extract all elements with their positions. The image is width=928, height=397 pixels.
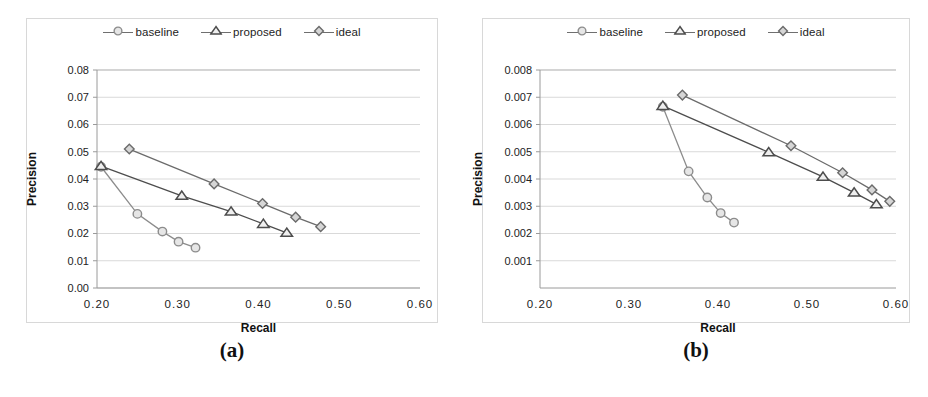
data-point-proposed [848, 188, 860, 196]
y-axis-tick-label: 0.001 [504, 255, 532, 267]
series-ideal [124, 144, 325, 231]
data-point-ideal [885, 197, 895, 207]
data-point-proposed [281, 228, 293, 236]
panel-caption-b: (b) [464, 338, 928, 363]
x-axis-tick-label: 0.50 [326, 298, 352, 310]
chart-panel-a: baselineproposedideal 0.000.010.020.030.… [0, 0, 464, 397]
x-axis-tick-label: 0.40 [705, 298, 731, 310]
y-axis-tick-label: 0.08 [68, 64, 89, 76]
x-axis-tick-label: 0.30 [616, 298, 642, 310]
y-axis-tick-label: 0.002 [504, 227, 532, 239]
y-axis-tick-label: 0.005 [504, 146, 532, 158]
y-axis-tick-label: 0.04 [68, 173, 89, 185]
y-axis-tick-label: 0.007 [504, 91, 532, 103]
x-axis-tick-label: 0.20 [84, 298, 110, 310]
data-point-baseline [684, 167, 692, 175]
y-axis-tick-label: 0.00 [68, 282, 89, 294]
data-point-proposed [176, 191, 188, 199]
figure-container: baselineproposedideal 0.000.010.020.030.… [0, 0, 928, 397]
chart-panel-b: baselineproposedideal 0.0010.0020.0030.0… [464, 0, 928, 397]
y-axis-tick-label: 0.03 [68, 200, 89, 212]
data-point-baseline [174, 237, 182, 245]
x-axis-tick-label: 0.30 [165, 298, 191, 310]
series-proposed [657, 101, 882, 208]
data-point-baseline [730, 218, 738, 226]
y-axis-tick-label: 0.07 [68, 91, 89, 103]
x-axis-title: Recall [700, 321, 735, 335]
x-axis-tick-label: 0.60 [407, 298, 433, 310]
y-axis-tick-label: 0.003 [504, 200, 532, 212]
x-axis-tick-label: 0.40 [245, 298, 271, 310]
data-point-proposed [817, 172, 829, 180]
series-baseline [97, 163, 200, 252]
y-axis-tick-label: 0.06 [68, 118, 89, 130]
y-axis-title: Precision [471, 152, 485, 206]
y-axis-tick-label: 0.02 [68, 227, 89, 239]
data-point-baseline [191, 243, 199, 251]
data-point-proposed [871, 199, 883, 207]
data-point-baseline [158, 227, 166, 235]
y-axis-tick-label: 0.004 [504, 173, 532, 185]
data-point-baseline [716, 209, 724, 217]
data-point-baseline [703, 193, 711, 201]
y-axis-tick-label: 0.006 [504, 118, 532, 130]
x-axis-tick-label: 0.50 [794, 298, 820, 310]
data-point-ideal [124, 144, 134, 154]
data-point-ideal [209, 179, 219, 189]
data-point-ideal [867, 185, 877, 195]
data-point-ideal [678, 90, 688, 100]
data-point-ideal [838, 168, 848, 178]
data-point-ideal [291, 212, 301, 222]
data-point-proposed [258, 219, 270, 227]
data-point-ideal [316, 222, 326, 232]
y-axis-tick-label: 0.05 [68, 146, 89, 158]
x-axis-tick-label: 0.20 [527, 298, 553, 310]
x-axis-tick-label: 0.60 [883, 298, 909, 310]
y-axis-tick-label: 0.01 [68, 255, 89, 267]
data-point-baseline [133, 210, 141, 218]
data-point-ideal [258, 199, 268, 209]
x-axis-title: Recall [241, 321, 276, 335]
y-axis-title: Precision [25, 152, 39, 206]
series-ideal [678, 90, 895, 206]
y-axis-tick-label: 0.008 [504, 64, 532, 76]
data-point-ideal [786, 141, 796, 151]
panel-caption-a: (a) [0, 338, 464, 363]
